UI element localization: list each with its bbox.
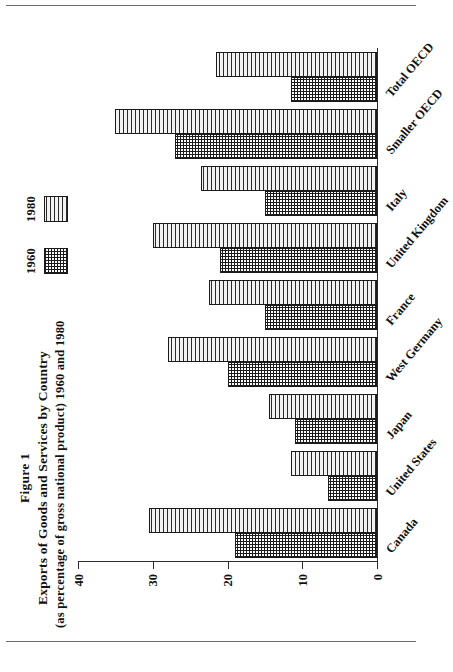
bar-1960-united-states (328, 476, 377, 501)
bar-group (78, 223, 377, 273)
category-label-canada: Canada (383, 515, 421, 557)
category-labels: CanadaUnited StatesJapanWest GermanyFran… (379, 48, 453, 561)
bar-1960-total-oecd (291, 77, 377, 102)
bar-group (78, 508, 377, 558)
page-rule-right (6, 5, 416, 6)
legend-swatch-1980 (44, 196, 68, 222)
bar-group (78, 451, 377, 501)
legend-swatch-1960 (44, 248, 68, 274)
category-label-france: France (383, 290, 419, 328)
legend-item-1960: 1960 (24, 248, 68, 274)
bars-container (78, 48, 377, 561)
y-tick-10: 10 (302, 562, 303, 569)
bar-1980-west-germany (168, 337, 377, 362)
figure-number: Figure 1 (16, 328, 34, 628)
bar-1980-canada (149, 508, 377, 533)
bar-group (78, 280, 377, 330)
category-label-japan: Japan (383, 408, 415, 443)
y-tick-20: 20 (228, 562, 229, 569)
bar-1960-canada (235, 533, 377, 558)
bar-group (78, 109, 377, 159)
legend-item-1980: 1980 (24, 196, 68, 222)
bar-1980-united-states (291, 451, 377, 476)
bar-1960-france (265, 305, 377, 330)
legend-label-1960: 1960 (24, 248, 39, 274)
bar-1980-italy (201, 166, 377, 191)
bar-group (78, 394, 377, 444)
category-label-united-states: United States (383, 435, 440, 499)
y-tick-label-20: 20 (221, 574, 236, 587)
bar-1960-united-kingdom (220, 248, 377, 273)
bar-1980-japan (269, 394, 377, 419)
x-axis-line (377, 48, 378, 562)
y-tick-30: 30 (153, 562, 154, 569)
bar-1960-smaller-oecd (175, 134, 377, 159)
bar-group (78, 166, 377, 216)
y-tick-40: 40 (78, 562, 79, 569)
bar-1980-united-kingdom (153, 223, 377, 248)
bar-1980-france (209, 280, 377, 305)
figure-title: Figure 1 Exports of Goods and Services b… (16, 328, 69, 628)
figure-subtitle: (as percentage of gross national product… (52, 328, 69, 628)
bar-1980-total-oecd (216, 52, 377, 77)
y-tick-0: 0 (377, 562, 378, 569)
bar-group (78, 337, 377, 387)
plot-area: 010203040 CanadaUnited StatesJapanWest G… (78, 48, 378, 608)
bar-1960-west-germany (228, 362, 378, 387)
bar-group (78, 52, 377, 102)
page-rule-left (6, 641, 416, 642)
chart-legend: 1960 1980 (24, 196, 68, 274)
bar-1960-japan (295, 419, 377, 444)
legend-label-1980: 1980 (24, 196, 39, 222)
y-tick-label-0: 0 (370, 574, 385, 580)
figure-headline: Exports of Goods and Services by Country (34, 328, 52, 628)
y-tick-label-30: 30 (146, 574, 161, 587)
category-label-italy: Italy (383, 186, 411, 215)
bar-1980-smaller-oecd (115, 109, 377, 134)
y-tick-label-40: 40 (71, 574, 86, 587)
bar-1960-italy (265, 191, 377, 216)
y-tick-label-10: 10 (295, 574, 310, 587)
